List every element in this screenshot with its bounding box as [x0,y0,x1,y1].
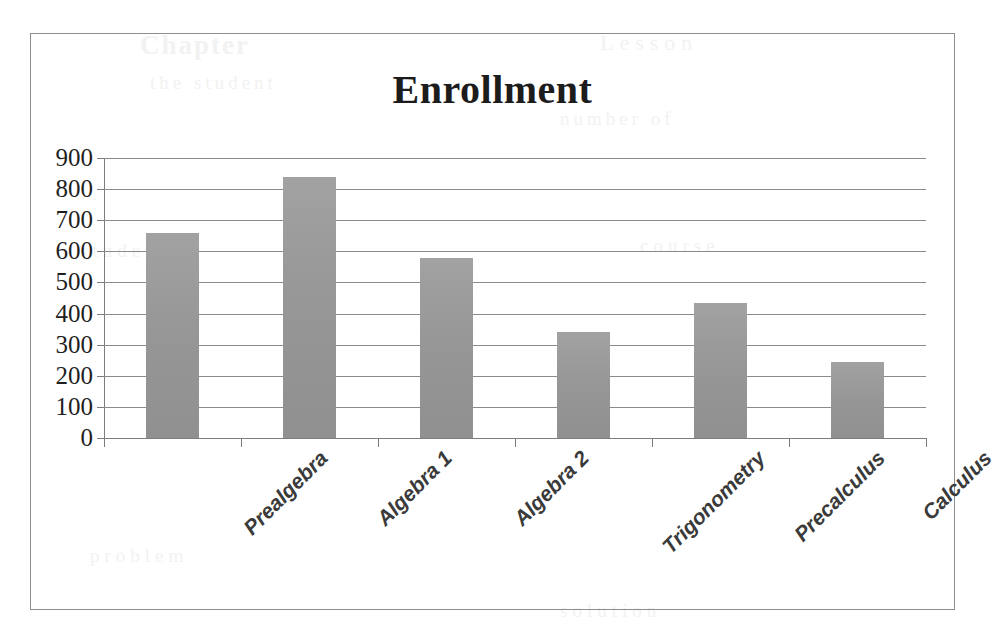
y-axis-tick-label: 100 [56,393,94,421]
bar-calculus[interactable] [831,362,884,438]
y-axis-tick-label: 200 [56,362,94,390]
plot-area [104,158,926,438]
y-axis-tick-label: 900 [56,144,94,172]
chart-title: Enrollment [31,66,954,113]
y-axis-tick-label: 800 [56,175,94,203]
x-axis-labels: PrealgebraAlgebra 1Algebra 2Trigonometry… [104,446,927,596]
y-axis-tick-label: 300 [56,331,94,359]
gridline [104,251,926,252]
x-axis-label-prealgebra: Prealgebra [238,446,332,540]
y-axis-tick [97,345,104,346]
y-axis-tick-label: 600 [56,237,94,265]
x-axis-label-algebra-1: Algebra 1 [372,446,457,531]
y-axis-line [104,158,105,439]
x-axis-label-trigonometry: Trigonometry [657,446,769,558]
y-axis-tick-label: 0 [81,424,94,452]
gridline [104,158,926,159]
y-axis-tick [97,282,104,283]
y-axis-tick [97,158,104,159]
y-axis-tick [97,407,104,408]
gridline [104,314,926,315]
y-axis-tick [97,251,104,252]
bar-algebra-2[interactable] [420,258,473,438]
gridline [104,220,926,221]
y-axis-tick-label: 400 [56,300,94,328]
y-axis-tick [97,314,104,315]
y-axis-tick [97,438,104,439]
gridline [104,345,926,346]
y-axis-tick [97,189,104,190]
bar-prealgebra[interactable] [146,233,199,438]
x-axis-label-precalculus: Precalculus [789,446,889,546]
gridline [104,407,926,408]
y-axis-tick [97,376,104,377]
x-axis-label-algebra-2: Algebra 2 [509,446,594,531]
gridline [104,189,926,190]
y-axis-tick [97,220,104,221]
bar-precalculus[interactable] [694,303,747,438]
y-axis-tick-label: 500 [56,268,94,296]
bar-chart: Enrollment 9008007006005004003002001000 … [30,33,955,610]
gridline [104,282,926,283]
y-axis-labels: 9008007006005004003002001000 [31,158,93,439]
bar-algebra-1[interactable] [283,177,336,438]
bar-trigonometry[interactable] [557,332,610,438]
x-axis-label-calculus: Calculus [917,446,996,525]
y-axis-tick-label: 700 [56,206,94,234]
gridline [104,376,926,377]
